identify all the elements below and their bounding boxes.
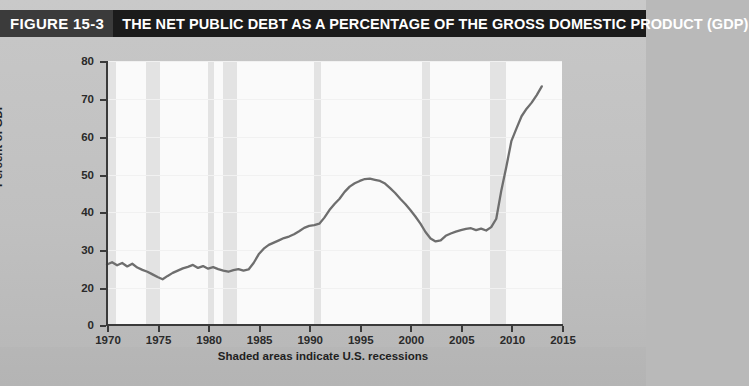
chart-caption: Shaded areas indicate U.S. recessions [0,350,646,362]
y-axis-title: Percent of GDP [0,103,4,187]
x-axis-line [106,324,563,326]
y-axis-tick [100,175,106,177]
y-axis-label: 50 [81,169,94,181]
chart-panel: Percent of GDP 020304050607080 197019751… [0,37,646,347]
y-axis-label: 20 [81,282,94,294]
y-axis-tick [100,250,106,252]
x-axis-tick [511,326,513,332]
y-axis-label: 0 [88,319,94,331]
x-axis-label: 2015 [550,334,576,346]
y-axis-tick [100,288,106,290]
x-axis-label: 1995 [348,334,374,346]
x-axis-label: 2010 [500,334,526,346]
y-axis-tick [100,137,106,139]
x-axis-tick [208,326,210,332]
y-axis-tick [100,325,106,327]
x-axis-tick [259,326,261,332]
figure-title: THE NET PUBLIC DEBT AS A PERCENTAGE OF T… [113,16,748,32]
y-axis-tick [100,61,106,63]
x-axis-tick [562,326,564,332]
x-axis-label: 2000 [399,334,425,346]
y-axis-label: 70 [81,93,94,105]
y-axis-tick [100,212,106,214]
x-axis-label: 2005 [449,334,475,346]
x-axis-label: 1985 [247,334,273,346]
x-axis-tick [461,326,463,332]
x-axis-label: 1980 [196,334,222,346]
plot-area [107,61,562,325]
x-axis-tick [360,326,362,332]
x-axis-tick [158,326,160,332]
y-axis-tick [100,99,106,101]
x-axis-tick [410,326,412,332]
y-axis-label: 40 [81,206,94,218]
x-axis-label: 1975 [146,334,172,346]
y-axis-label: 80 [81,55,94,67]
figure-title-bar: FIGURE 15-3 THE NET PUBLIC DEBT AS A PER… [0,10,646,37]
y-axis-line [106,61,108,325]
data-line-series [107,61,562,325]
x-axis-label: 1970 [95,334,121,346]
figure-number-label: FIGURE 15-3 [0,10,113,37]
y-axis-label: 30 [81,244,94,256]
series-path [107,86,542,279]
x-axis-label: 1990 [297,334,323,346]
y-axis-label: 60 [81,131,94,143]
x-axis-tick [107,326,109,332]
x-axis-tick [309,326,311,332]
